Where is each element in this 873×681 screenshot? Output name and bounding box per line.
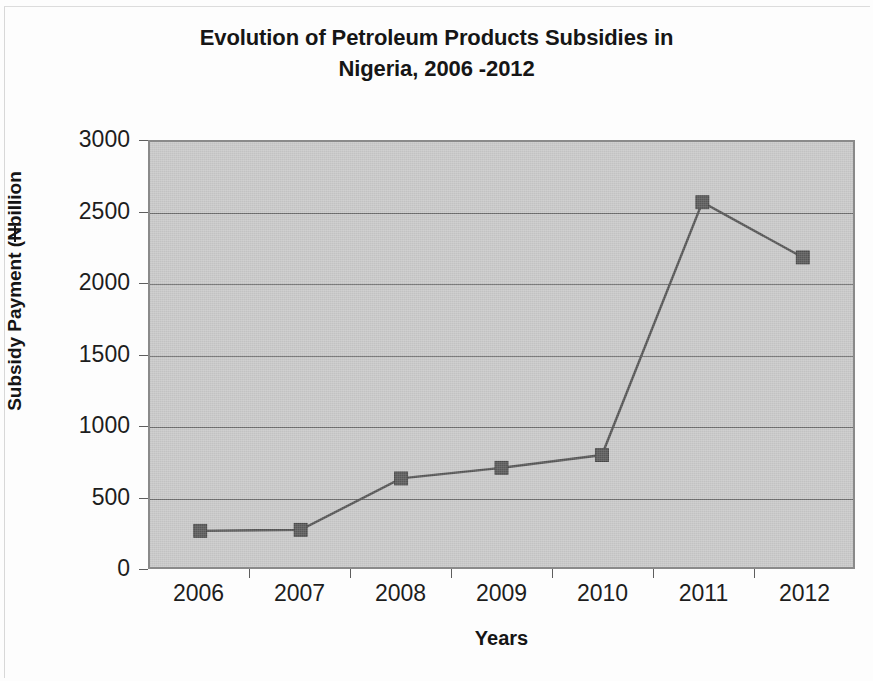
chart-title-line-2: Nigeria, 2006 -2012	[0, 53, 873, 84]
x-tick-label: 2012	[745, 582, 865, 605]
y-tick-mark	[139, 355, 148, 356]
y-tick-mark	[139, 426, 148, 427]
y-axis-title-suffix: billion	[4, 171, 25, 227]
series-marker	[495, 461, 508, 474]
series-marker	[696, 196, 709, 209]
y-tick-mark	[139, 569, 148, 570]
scan-noise-overlay	[150, 142, 853, 567]
y-tick-label: 1000	[40, 414, 130, 437]
y-axis-title: Subsidy Payment (Nbillion	[4, 11, 26, 571]
naira-currency-symbol: N	[4, 227, 26, 241]
chart-title: Evolution of Petroleum Products Subsidie…	[0, 22, 873, 84]
gridline	[150, 356, 853, 357]
y-tick-mark	[139, 212, 148, 213]
x-axis-title: Years	[148, 627, 855, 650]
y-axis-title-prefix: Subsidy Payment (	[4, 241, 25, 411]
chart-page: Evolution of Petroleum Products Subsidie…	[0, 0, 873, 681]
series-marker	[294, 523, 307, 536]
chart-title-line-1: Evolution of Petroleum Products Subsidie…	[0, 22, 873, 53]
y-tick-label: 0	[40, 557, 130, 580]
x-tick-mark	[552, 569, 553, 578]
x-tick-mark	[754, 569, 755, 578]
y-tick-mark	[139, 283, 148, 284]
x-tick-mark	[653, 569, 654, 578]
y-tick-mark	[139, 498, 148, 499]
series-marker	[395, 472, 408, 485]
series-marker	[796, 251, 809, 264]
y-tick-label: 1500	[40, 343, 130, 366]
y-tick-mark	[139, 140, 148, 141]
series-line	[200, 202, 803, 531]
y-tick-label: 2000	[40, 271, 130, 294]
y-tick-label: 500	[40, 486, 130, 509]
gridline	[150, 499, 853, 500]
y-tick-label: 3000	[40, 128, 130, 151]
x-tick-mark	[451, 569, 452, 578]
gridline	[150, 284, 853, 285]
y-tick-label: 2500	[40, 200, 130, 223]
x-tick-mark	[249, 569, 250, 578]
series-markers	[194, 196, 809, 537]
series-layer	[150, 142, 853, 567]
gridline	[150, 427, 853, 428]
x-tick-mark	[350, 569, 351, 578]
plot-area	[148, 140, 855, 569]
gridline	[150, 213, 853, 214]
series-marker	[595, 449, 608, 462]
scan-edge-top	[4, 6, 870, 7]
series-marker	[194, 524, 207, 537]
